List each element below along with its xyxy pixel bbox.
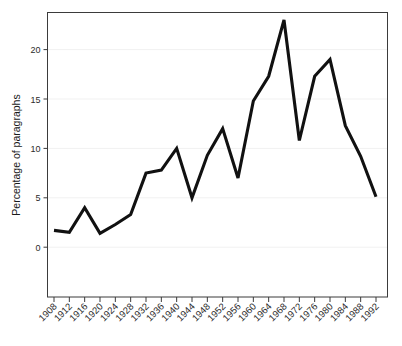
chart-figure: 05101520 1908191219161920192419281932193… bbox=[0, 0, 402, 346]
y-axis-title: Percentage of paragraphs bbox=[10, 94, 22, 215]
y-axis-tick-label: 5 bbox=[35, 193, 40, 203]
y-axis-tick-label: 0 bbox=[35, 243, 40, 253]
y-axis-tick-label: 10 bbox=[30, 144, 40, 154]
y-axis-tick-label: 20 bbox=[30, 45, 40, 55]
line-chart: 05101520 1908191219161920192419281932193… bbox=[0, 0, 402, 346]
y-axis-tick-label: 15 bbox=[30, 95, 40, 105]
